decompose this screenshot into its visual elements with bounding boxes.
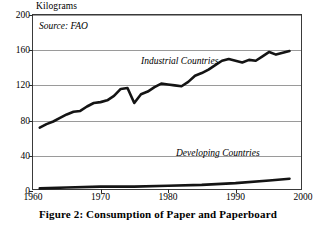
plot-area: 04080120160200 19601970198019902000 Sour… bbox=[32, 14, 302, 190]
x-axis-tick-label: 2000 bbox=[294, 192, 313, 203]
x-axis-tick-label: 1990 bbox=[226, 192, 245, 203]
series-line-developing-countries bbox=[40, 179, 290, 189]
source-annotation: Source: FAO bbox=[39, 21, 88, 32]
figure-caption: Figure 2: Consumption of Paper and Paper… bbox=[0, 208, 316, 221]
x-axis-tick-label: 1980 bbox=[159, 192, 178, 203]
y-axis-tick-label: 160 bbox=[16, 45, 30, 55]
series-label-developing-countries: Developing Countries bbox=[176, 148, 260, 159]
figure-consumption-paper-paperboard: Kilograms 04080120160200 196019701980199… bbox=[0, 0, 316, 228]
y-axis-unit-label: Kilograms bbox=[36, 1, 77, 12]
x-axis-tick-label: 1960 bbox=[24, 192, 43, 203]
y-axis-tick-label: 120 bbox=[16, 80, 30, 90]
series-label-industrial-countries: Industrial Countries bbox=[141, 56, 218, 67]
x-axis-tick-label: 1970 bbox=[91, 192, 110, 203]
series-layer bbox=[33, 15, 303, 191]
y-axis-tick-label: 200 bbox=[16, 10, 30, 20]
